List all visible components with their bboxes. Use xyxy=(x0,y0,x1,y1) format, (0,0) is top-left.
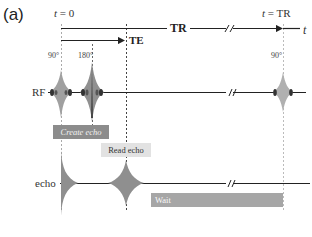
pulse-90-label: 90° xyxy=(48,51,59,60)
time-axis-label: t xyxy=(303,23,306,38)
echo-break-icon xyxy=(228,180,231,187)
t-tr-label: t = TR xyxy=(262,7,291,19)
create-echo-phase: Create echo xyxy=(53,125,109,139)
rf-pulse-180 xyxy=(80,62,104,122)
pulse-180-label: 180° xyxy=(78,51,93,60)
t-zero-label: t = 0 xyxy=(54,7,74,19)
echo-row-label: echo xyxy=(35,177,56,189)
rf-row-label: RF xyxy=(32,86,45,98)
tr-label: TR xyxy=(167,21,190,36)
wait-phase: Wait xyxy=(151,193,283,207)
fid-signal xyxy=(61,150,78,216)
rf-break-icon xyxy=(229,89,232,96)
echo-baseline xyxy=(60,180,310,187)
pulse-90-repeat-label: 90° xyxy=(271,51,282,60)
read-echo-phase: Read echo xyxy=(101,143,151,157)
rf-pulse-90 xyxy=(50,70,72,118)
rf-pulse-90-repeat xyxy=(273,72,293,112)
spin-echo-signal xyxy=(108,160,144,206)
spin-echo-timing-diagram: (a) t = 0 t = TR t TR TE 90° 180° 90° RF… xyxy=(0,0,312,237)
te-label: TE xyxy=(129,34,144,46)
panel-label: (a) xyxy=(3,5,24,25)
